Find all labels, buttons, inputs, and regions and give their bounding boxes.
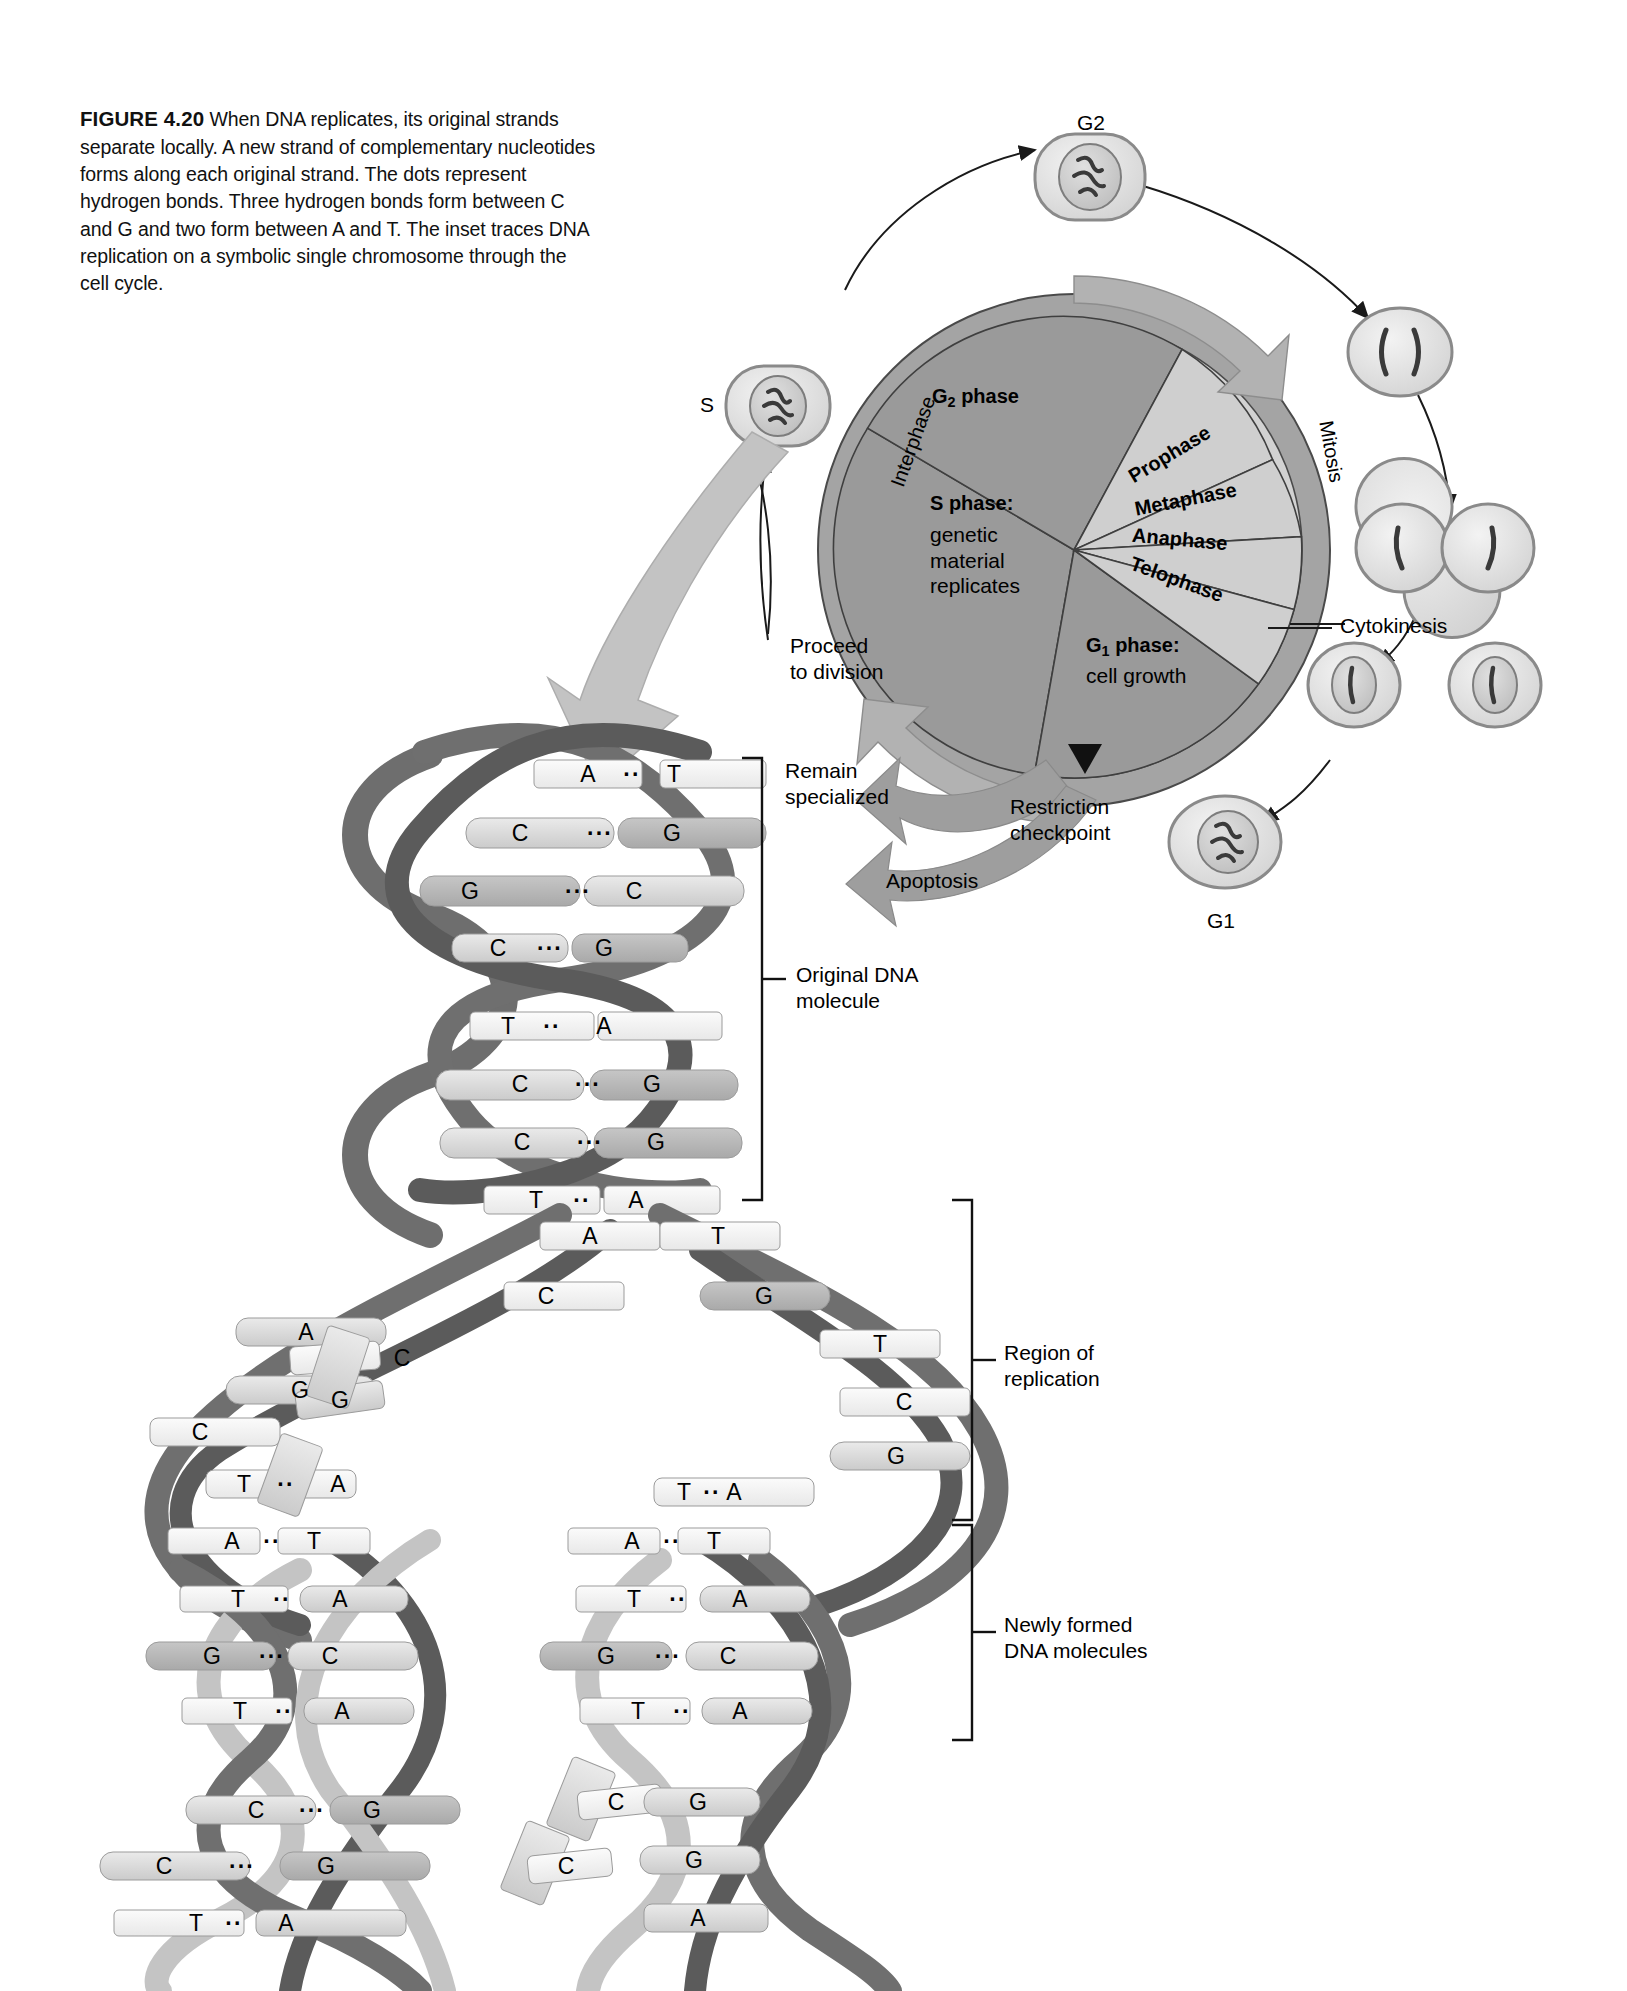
cell-g2	[1035, 134, 1145, 220]
stage-label-g1: G1	[1207, 908, 1235, 934]
base-letter: G	[363, 1797, 381, 1824]
base-letter: C	[490, 935, 507, 962]
base-letter: A	[580, 761, 595, 788]
cell-s	[726, 366, 830, 446]
base-letter: G	[689, 1789, 707, 1816]
base-letter: G	[597, 1643, 615, 1670]
base-letter: G	[663, 820, 681, 847]
sector-sublabel-g1: cell growth	[1086, 663, 1186, 689]
hydrogen-bond-dots: ···	[259, 1643, 285, 1670]
base-letter: C	[248, 1797, 265, 1824]
dna-brackets	[742, 758, 996, 1740]
base-letter: A	[596, 1013, 611, 1040]
annotation-restriction-checkpoint: Restriction checkpoint	[1010, 794, 1110, 845]
base-letter: A	[278, 1910, 293, 1937]
hydrogen-bond-dots: ··	[543, 1013, 560, 1040]
base-letter: A	[732, 1698, 747, 1725]
ring-label-mitosis: Mitosis	[1314, 419, 1347, 484]
base-letter: G	[647, 1129, 665, 1156]
base-letter: T	[231, 1586, 245, 1613]
figure-root: FIGURE 4.20 When DNA replicates, its ori…	[0, 0, 1627, 1991]
s-to-dna-arrow	[548, 432, 788, 786]
base-letter: T	[677, 1479, 691, 1506]
hydrogen-bond-dots: ···	[565, 878, 591, 905]
bracket-label-original-dna: Original DNA molecule	[796, 962, 919, 1013]
base-letter: A	[334, 1698, 349, 1725]
bracket-label-region-of-replication: Region of replication	[1004, 1340, 1100, 1391]
base-letter-free: C	[394, 1345, 411, 1372]
hydrogen-bond-dots: ··	[673, 1698, 690, 1725]
base-letter: G	[887, 1443, 905, 1470]
figure-caption: FIGURE 4.20 When DNA replicates, its ori…	[80, 105, 600, 297]
annotation-cytokinesis: Cytokinesis	[1340, 613, 1447, 639]
sector-label-g2: G2 phase	[932, 385, 1019, 410]
stage-label-g2: G2	[1077, 110, 1105, 136]
base-letter-free: C	[558, 1853, 575, 1880]
hydrogen-bond-dots: ··	[263, 1528, 280, 1555]
base-letter: C	[720, 1643, 737, 1670]
hydrogen-bond-dots: ··	[669, 1586, 686, 1613]
base-letter: C	[192, 1419, 209, 1446]
base-letter: C	[538, 1283, 555, 1310]
cell-daughter-left	[1308, 643, 1400, 727]
hydrogen-bond-dots: ··	[573, 1187, 590, 1214]
hydrogen-bond-dots: ···	[575, 1071, 601, 1098]
base-letter: T	[307, 1528, 321, 1555]
base-letter: A	[330, 1471, 345, 1498]
ring-label-interphase: Interphase	[886, 393, 940, 490]
annotation-proceed-to-division: Proceed to division	[790, 633, 883, 684]
cell-mitotic	[1348, 308, 1452, 396]
cell-daughter-right	[1449, 643, 1541, 727]
base-letter: A	[628, 1187, 643, 1214]
figure-caption-text: When DNA replicates, its original strand…	[80, 108, 595, 294]
base-letter: A	[298, 1319, 313, 1346]
hydrogen-bond-dots: ··	[225, 1910, 242, 1937]
base-letter: T	[667, 761, 681, 788]
base-letter: T	[873, 1331, 887, 1358]
base-letter: A	[624, 1528, 639, 1555]
base-letter: C	[512, 820, 529, 847]
stage-label-s: S	[700, 392, 714, 418]
hydrogen-bond-dots: ··	[273, 1586, 290, 1613]
sector-label-anaphase: Anaphase	[1131, 524, 1228, 555]
base-letter: C	[512, 1071, 529, 1098]
base-letter: A	[224, 1528, 239, 1555]
base-letter: A	[332, 1586, 347, 1613]
hydrogen-bond-dots: ···	[655, 1643, 681, 1670]
base-letter: T	[711, 1223, 725, 1250]
base-letter: G	[685, 1847, 703, 1874]
base-letter: T	[631, 1698, 645, 1725]
hydrogen-bond-dots: ···	[229, 1853, 255, 1880]
base-letter: C	[156, 1853, 173, 1880]
hydrogen-bond-dots: ··	[277, 1471, 294, 1498]
sector-sublabel-s: genetic material replicates	[930, 522, 1020, 599]
base-letter: T	[237, 1471, 251, 1498]
base-letter: G	[291, 1377, 309, 1404]
base-letter: A	[732, 1586, 747, 1613]
base-letter: T	[627, 1586, 641, 1613]
cell-g1	[1169, 796, 1281, 888]
hydrogen-bond-dots: ··	[663, 1528, 680, 1555]
sector-label-prophase: Prophase	[1125, 421, 1215, 488]
base-letter: T	[233, 1698, 247, 1725]
base-letter: T	[707, 1528, 721, 1555]
base-letter: G	[755, 1283, 773, 1310]
base-letter: A	[690, 1905, 705, 1932]
figure-number: FIGURE 4.20	[80, 107, 204, 130]
base-letter-free: G	[331, 1387, 349, 1414]
sector-label-telophase: Telophase	[1127, 552, 1226, 607]
annotation-apoptosis: Apoptosis	[886, 868, 978, 894]
base-letter: T	[501, 1013, 515, 1040]
base-letter: C	[896, 1389, 913, 1416]
base-letter: G	[317, 1853, 335, 1880]
base-letter: G	[461, 878, 479, 905]
hydrogen-bond-dots: ···	[537, 935, 563, 962]
cell-dividing	[1356, 458, 1534, 637]
hydrogen-bond-dots: ···	[577, 1129, 603, 1156]
replication-right-nucleotides	[654, 1222, 970, 1506]
base-letter: A	[582, 1223, 597, 1250]
base-letter: A	[726, 1479, 741, 1506]
sector-label-g1: G1 phase:	[1086, 634, 1180, 659]
base-letter: C	[514, 1129, 531, 1156]
base-letter: G	[643, 1071, 661, 1098]
